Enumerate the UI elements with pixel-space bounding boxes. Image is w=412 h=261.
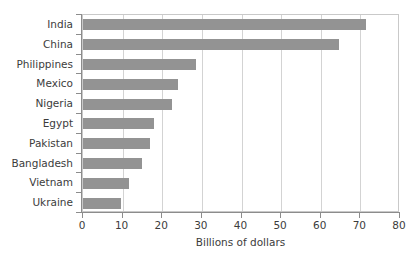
y-tick-label-vietnam: Vietnam (29, 176, 73, 188)
x-tick-label-40: 40 (234, 219, 247, 231)
bar-row (83, 15, 400, 35)
bar-row (83, 134, 400, 154)
x-tick (399, 213, 400, 218)
y-tick-label-egypt: Egypt (43, 117, 73, 129)
bar-row (83, 35, 400, 55)
y-tick (76, 93, 82, 94)
x-axis-title: Billions of dollars (82, 236, 399, 248)
bar-vietnam (83, 178, 129, 189)
bar-philippines (83, 59, 196, 70)
bar-row (83, 94, 400, 114)
y-tick (76, 113, 82, 114)
y-tick-label-ukraine: Ukraine (32, 196, 73, 208)
x-tick-label-80: 80 (392, 219, 405, 231)
x-tick-label-50: 50 (273, 219, 286, 231)
y-tick-label-india: India (47, 18, 73, 30)
x-tick-label-0: 0 (79, 219, 86, 231)
y-tick (76, 192, 82, 193)
bar-china (83, 39, 339, 50)
y-tick (76, 133, 82, 134)
y-tick (76, 34, 82, 35)
bar-india (83, 19, 366, 30)
x-tick-label-30: 30 (194, 219, 207, 231)
bar-pakistan (83, 138, 150, 149)
y-tick (76, 14, 82, 15)
bars-layer (83, 15, 398, 211)
y-tick-label-mexico: Mexico (36, 77, 73, 89)
y-tick-label-bangladesh: Bangladesh (11, 157, 73, 169)
x-tick (359, 213, 360, 218)
y-tick (76, 172, 82, 173)
x-tick-label-60: 60 (313, 219, 326, 231)
x-tick (320, 213, 321, 218)
bar-mexico (83, 79, 178, 90)
bar-row (83, 74, 400, 94)
x-tick (241, 213, 242, 218)
bar-row (83, 55, 400, 75)
x-tick-label-20: 20 (155, 219, 168, 231)
bar-bangladesh (83, 158, 142, 169)
bar-row (83, 173, 400, 193)
x-tick (161, 213, 162, 218)
bar-ukraine (83, 198, 121, 209)
y-tick (76, 153, 82, 154)
x-tick-label-10: 10 (115, 219, 128, 231)
bar-egypt (83, 118, 154, 129)
x-tick (201, 213, 202, 218)
plot-area (82, 14, 399, 212)
bar-nigeria (83, 99, 172, 110)
bar-row (83, 114, 400, 134)
y-tick-label-pakistan: Pakistan (29, 137, 73, 149)
x-tick (122, 213, 123, 218)
x-tick (82, 213, 83, 218)
bar-row (83, 154, 400, 174)
bar-chart: IndiaChinaPhilippinesMexicoNigeriaEgyptP… (0, 0, 412, 261)
x-tick (280, 213, 281, 218)
y-tick-label-china: China (43, 38, 73, 50)
bar-row (83, 193, 400, 213)
y-tick (76, 73, 82, 74)
x-tick-label-70: 70 (353, 219, 366, 231)
y-tick-label-philippines: Philippines (16, 58, 73, 70)
y-tick-label-nigeria: Nigeria (35, 97, 73, 109)
y-tick (76, 54, 82, 55)
